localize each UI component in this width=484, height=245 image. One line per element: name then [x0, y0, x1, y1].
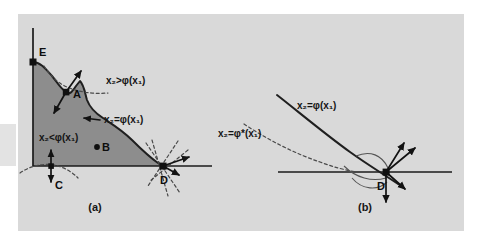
point-b-marker [94, 144, 100, 150]
point-a-marker [63, 89, 70, 96]
point-b-label: B [102, 141, 110, 153]
point-e-marker [30, 59, 37, 66]
left-margin-tab [0, 124, 16, 166]
label-region-below: x₂<φ(x₁) [39, 132, 78, 143]
point-d-label: D [160, 174, 168, 186]
point-d-marker [160, 163, 167, 170]
point-d-b-label: D [377, 180, 385, 192]
point-c-marker [48, 163, 54, 169]
point-e-label: E [39, 46, 46, 58]
caption-panel-a: (a) [88, 201, 102, 213]
label-curve-phi-b-text: x₂=φ(x₁) [297, 100, 336, 111]
label-curve-phi-text: x₂=φ(x₁) [104, 114, 143, 125]
label-region-above: x₂>φ(x₁) [106, 75, 145, 86]
label-region-above-text: x₂>φ(x₁) [106, 75, 145, 86]
figure-canvas: E A B C D x₂>φ(x₁) [0, 0, 484, 245]
point-a-label: A [73, 88, 81, 100]
figure-root: E A B C D x₂>φ(x₁) [0, 0, 484, 245]
label-curve-phi: x₂=φ(x₁) [104, 114, 143, 125]
label-curve-phi-star-b-text: x₂=φ*(x₁) [218, 128, 261, 139]
point-d-b-marker [383, 169, 390, 176]
label-region-below-text: x₂<φ(x₁) [39, 132, 78, 143]
caption-panel-b: (b) [358, 201, 372, 213]
label-curve-phi-b: x₂=φ(x₁) [297, 100, 336, 111]
point-c-label: C [55, 179, 63, 191]
label-curve-phi-star-b: x₂=φ*(x₁) [218, 128, 261, 139]
